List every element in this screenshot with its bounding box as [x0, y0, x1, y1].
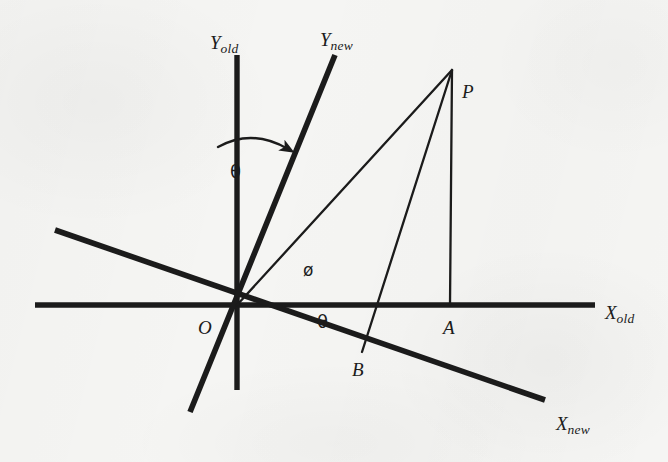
axis-label-y-new: Ynew [320, 30, 353, 53]
axis-line-x-new [55, 230, 545, 400]
axis-label-x-old-base: X [605, 302, 617, 323]
theta-rotation-arc [218, 138, 288, 149]
axis-label-y-new-base: Y [320, 29, 331, 50]
point-label-a: A [443, 318, 455, 337]
axis-label-y-old-sub: old [221, 41, 239, 56]
axis-line-y-new [190, 55, 335, 412]
axis-label-x-new-base: X [556, 413, 568, 434]
angle-label-theta-rotation: θ [230, 163, 241, 181]
axis-label-x-old: Xold [605, 303, 634, 326]
angle-label-phi: ø [303, 262, 313, 279]
rotation-diagram: Xold Yold Xnew Ynew O P A B θ θ ø [0, 0, 668, 462]
segment-op [237, 70, 452, 305]
angle-label-theta-axis: θ [317, 313, 328, 331]
axis-label-x-old-sub: old [617, 311, 635, 326]
segment-pa [450, 70, 452, 305]
axis-label-y-old-base: Y [210, 32, 221, 53]
axis-label-y-old: Yold [210, 33, 238, 56]
point-label-o: O [198, 318, 212, 337]
diagram-canvas [0, 0, 668, 462]
point-label-b: B [352, 360, 364, 379]
axis-label-x-new: Xnew [556, 414, 590, 437]
point-label-p: P [462, 82, 474, 101]
segment-pb [362, 70, 452, 352]
axis-label-x-new-sub: new [568, 422, 590, 437]
axis-label-y-new-sub: new [331, 38, 353, 53]
